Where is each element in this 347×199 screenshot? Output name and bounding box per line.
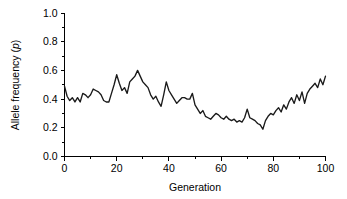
y-tick-label: 1.0 — [43, 7, 58, 19]
x-tick-label: 0 — [62, 162, 68, 174]
allele-frequency-chart-figure: 0.00.20.40.60.81.0 020406080100 Generati… — [0, 0, 347, 199]
y-tick-label: 0.0 — [43, 150, 58, 162]
y-axis-title-group: Allele frequency (p) — [9, 40, 21, 130]
y-tick-label: 0.4 — [43, 93, 58, 105]
y-axis-title: Allele frequency (p) — [9, 40, 21, 130]
y-tick-label: 0.8 — [43, 35, 58, 47]
x-axis-title: Generation — [169, 181, 221, 193]
y-tick-label: 0.2 — [43, 121, 58, 133]
y-tick-label: 0.6 — [43, 64, 58, 76]
y-axis-title-text: Allele frequency ( — [9, 49, 21, 131]
x-tick-label: 100 — [317, 162, 335, 174]
y-axis-title-paren: ) — [9, 40, 21, 44]
x-tick-label: 40 — [163, 162, 175, 174]
line-chart-plot: 0.00.20.40.60.81.0 020406080100 Generati… — [0, 0, 347, 199]
x-tick-label: 80 — [267, 162, 279, 174]
x-tick-label: 60 — [215, 162, 227, 174]
x-tick-label: 20 — [111, 162, 123, 174]
